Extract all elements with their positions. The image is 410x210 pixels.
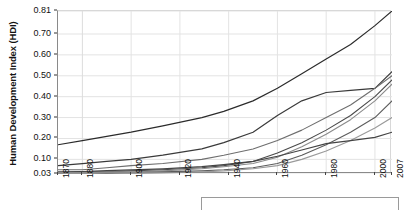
y-axis-title: Human Development Index (HDI)	[7, 4, 18, 184]
x-axis-line	[57, 172, 391, 173]
x-tick-label: 2007	[395, 159, 405, 178]
x-tick-label: 1900	[134, 159, 144, 178]
x-tick-mark	[228, 172, 229, 175]
x-tick-mark	[57, 172, 58, 175]
y-tick-label: 0.70	[33, 28, 51, 38]
x-tick-mark	[81, 172, 82, 175]
y-axis-tick-labels: 0.030.100.200.300.400.500.600.700.81	[22, 0, 54, 210]
y-tick-label: 0.03	[33, 168, 51, 178]
x-tick-mark	[391, 172, 392, 175]
x-tick-mark	[374, 172, 375, 175]
series-line	[58, 76, 392, 170]
x-tick-label: 1960	[280, 159, 290, 178]
x-tick-label: 1940	[232, 159, 242, 178]
plot-svg	[58, 11, 392, 174]
series-line	[58, 101, 392, 174]
y-tick-label: 0.50	[33, 70, 51, 80]
y-tick-label: 0.60	[33, 49, 51, 59]
x-tick-mark	[276, 172, 277, 175]
x-tick-label: 1870	[61, 159, 71, 178]
x-tick-mark	[130, 172, 131, 175]
y-tick-label: 0.20	[33, 132, 51, 142]
legend-frame	[201, 197, 399, 210]
x-tick-label: 1920	[183, 159, 193, 178]
hdi-line-chart: Human Development Index (HDI) 0.030.100.…	[0, 0, 410, 210]
x-tick-label: 2000	[378, 159, 388, 178]
y-tick-label: 0.81	[33, 5, 51, 15]
series-line	[58, 72, 392, 166]
x-tick-label: 1880	[85, 159, 95, 178]
plot-area	[57, 10, 391, 173]
x-tick-mark	[325, 172, 326, 175]
y-tick-label: 0.40	[33, 91, 51, 101]
x-tick-mark	[179, 172, 180, 175]
x-tick-label: 1980	[329, 159, 339, 178]
y-tick-label: 0.10	[33, 153, 51, 163]
y-tick-label: 0.30	[33, 112, 51, 122]
